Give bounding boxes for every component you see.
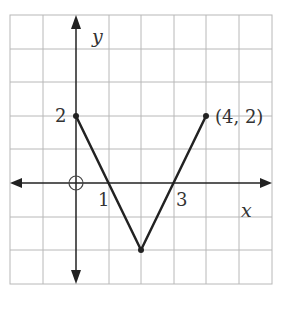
- point-0-2: [73, 113, 79, 119]
- arrow-left-icon: [10, 178, 22, 188]
- coordinate-plane: y x 2 1 3 (4, 2): [0, 0, 291, 309]
- arrow-down-icon: [71, 270, 81, 284]
- point-label-4-2: (4, 2): [215, 106, 263, 127]
- arrow-up-icon: [71, 15, 81, 29]
- grid: [10, 15, 272, 284]
- point-4-2: [203, 113, 209, 119]
- point-2-neg2: [138, 247, 144, 253]
- x-tick-label-3: 3: [176, 189, 187, 210]
- arrow-right-icon: [260, 178, 272, 188]
- y-tick-label-2: 2: [55, 105, 66, 126]
- y-axis-label: y: [91, 25, 103, 47]
- x-axis-label: x: [241, 199, 252, 221]
- x-tick-label-1: 1: [98, 189, 109, 210]
